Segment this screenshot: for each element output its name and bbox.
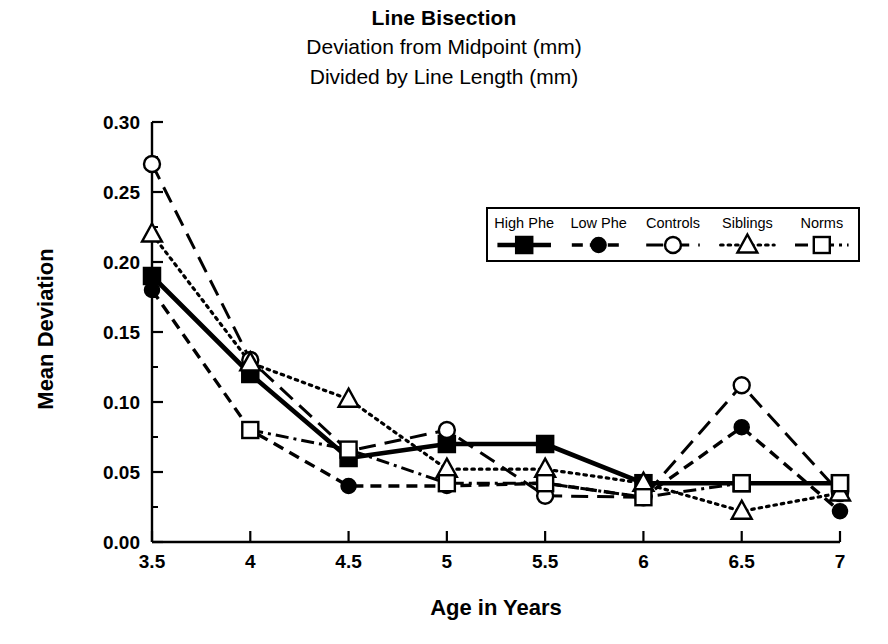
- x-tick-label: 3.5: [139, 551, 166, 572]
- series-norms-marker: [635, 489, 651, 505]
- y-tick-label: 0.10: [103, 392, 140, 413]
- legend-label-low-phe: Low Phe: [570, 215, 626, 231]
- series-norms-marker: [439, 475, 455, 491]
- series-norms-marker: [341, 442, 357, 458]
- series-norms-marker: [832, 475, 848, 491]
- legend-high-phe-marker: [516, 237, 533, 254]
- x-tick-label: 4: [245, 551, 256, 572]
- series-norms-marker: [537, 475, 553, 491]
- y-tick-label: 0.05: [103, 462, 140, 483]
- series-siblings-marker: [339, 389, 359, 407]
- series-controls-marker: [734, 377, 750, 393]
- legend-controls-marker: [665, 237, 681, 253]
- legend-label-siblings: Siblings: [722, 215, 773, 231]
- y-tick-label: 0.30: [103, 112, 140, 133]
- legend-label-controls: Controls: [646, 215, 700, 231]
- legend-label-high-phe: High Phe: [494, 215, 554, 231]
- plot-area: 0.000.050.100.150.200.250.303.544.555.56…: [0, 0, 888, 644]
- series-norms-marker: [734, 475, 750, 491]
- series-high-phe-marker: [537, 436, 554, 453]
- legend-label-norms: Norms: [800, 215, 843, 231]
- series-norms-marker: [242, 422, 258, 438]
- series-controls-marker: [439, 422, 455, 438]
- x-tick-label: 7: [835, 551, 846, 572]
- series-low-phe-marker: [341, 479, 356, 494]
- legend-low-phe-marker: [591, 238, 606, 253]
- x-tick-label: 6.5: [729, 551, 756, 572]
- series-siblings-marker: [732, 501, 752, 519]
- y-tick-label: 0.20: [103, 252, 140, 273]
- series-low-phe-marker: [145, 283, 160, 298]
- x-tick-label: 5: [442, 551, 453, 572]
- x-tick-label: 6: [638, 551, 649, 572]
- series-low-phe-marker: [833, 504, 848, 519]
- x-tick-label: 5.5: [532, 551, 559, 572]
- y-tick-label: 0.15: [103, 322, 140, 343]
- series-low-phe-marker: [734, 420, 749, 435]
- y-tick-label: 0.00: [103, 532, 140, 553]
- series-controls-marker: [144, 156, 160, 172]
- series-siblings-marker: [142, 224, 162, 242]
- chart-figure: Line Bisection Deviation from Midpoint (…: [0, 0, 888, 644]
- x-tick-label: 4.5: [335, 551, 362, 572]
- y-tick-label: 0.25: [103, 182, 140, 203]
- legend-norms-marker: [814, 237, 830, 253]
